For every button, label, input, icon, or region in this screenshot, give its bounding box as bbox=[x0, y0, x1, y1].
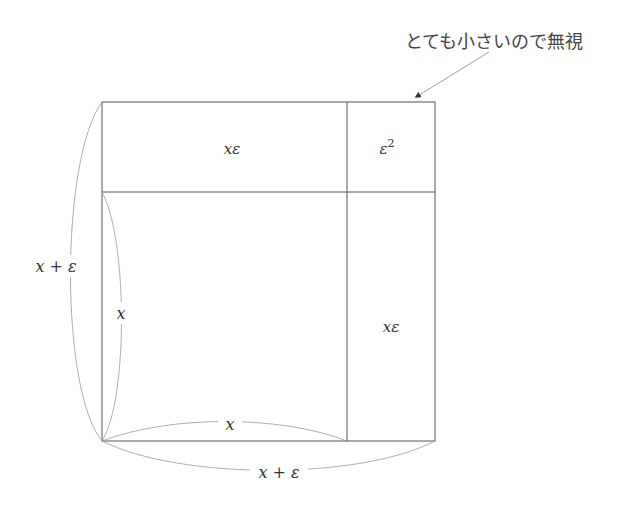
label-top-rect: xε bbox=[224, 140, 241, 158]
label-left-inner: x bbox=[116, 304, 125, 323]
label-corner-square: ε2 bbox=[379, 137, 394, 158]
square-expansion-diagram: xε ε2 xε x + ε x x x + ε とても小さいので無視 bbox=[0, 0, 629, 510]
annotation-arrow bbox=[416, 52, 489, 97]
label-bottom-outer: x + ε bbox=[258, 463, 299, 482]
label-left-outer: x + ε bbox=[35, 257, 76, 276]
label-right-rect: xε bbox=[383, 318, 400, 336]
label-bottom-inner: x bbox=[225, 415, 234, 434]
annotation-text: とても小さいので無視 bbox=[405, 31, 583, 52]
